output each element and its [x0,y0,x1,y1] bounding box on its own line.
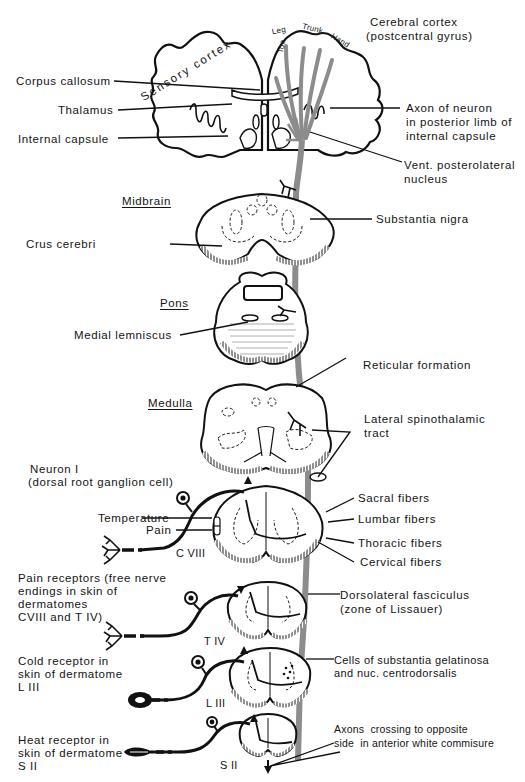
root-division-box [214,517,220,535]
midbrain-section [196,180,333,263]
spinal-segment-l3 [230,648,310,706]
substantia-nigra-label: Substantia nigra [376,212,469,226]
arrow-up-icon [240,646,248,654]
corpus-callosum-label: Corpus callosum [16,74,111,88]
axons-crossing-label-1: Axons crossing to opposite [334,722,468,736]
level-l3-label: L III [206,696,225,710]
neuron-i-label: Neuron I [30,462,79,476]
axon-neuron-label-2: in posterior limb of [406,115,512,129]
crus-cerebri-label: Crus cerebri [26,237,96,251]
level-t4-label: T IV [204,634,225,648]
arrow-up-icon [244,476,252,484]
down-arrow-icon [264,766,272,774]
substantia-gelatinosa-label-1: Cells of substantia gelatinosa [334,653,489,667]
homunculus-leg-label: Leg [271,23,288,40]
heat-receptor-label-3: S II [18,759,38,773]
reticular-formation-label: Reticular formation [363,358,471,372]
pain-receptors-label-4: CVIII and T IV) [18,610,103,624]
dorsolateral-fasciculus-label-2: (zone of Lissauer) [340,602,443,616]
cold-receptor-label-2: skin of dermatome [18,667,123,681]
axons-crossing-label-2: side in anterior white commisure [334,736,494,750]
postcentral-gyrus-label: (postcentral gyrus) [366,29,473,43]
axon-neuron-label-1: Axon of neuron [406,101,492,115]
level-s2-label: S II [220,758,238,772]
lateral-spinothalamic-label-2: tract [364,426,389,440]
pain-receptors-label-1: Pain receptors (free nerve [18,571,167,585]
heat-receptor-ending [124,748,152,757]
thoracic-fibers-label: Thoracic fibers [358,536,442,550]
medulla-section [201,384,331,481]
pain-receptors-label-3: dermatomes [18,597,88,611]
homunculus-toe-label: Toe [274,39,290,55]
level-c8-label: C VIII [176,546,205,560]
cold-receptor-bulb [128,692,152,708]
lumbar-fibers-label: Lumbar fibers [358,512,436,526]
pons-heading: Pons [160,296,189,310]
lateral-spinothalamic-label-1: Lateral spinothalamic [364,412,485,426]
dorsal-root-ganglion-label: (dorsal root ganglion cell) [28,475,173,489]
midbrain-heading: Midbrain [122,194,171,208]
pain-receptors-label-2: endings in skin of [18,584,118,598]
internal-capsule-label: Internal capsule [18,132,109,146]
sacral-fibers-label: Sacral fibers [358,491,430,505]
heat-receptor-label-2: skin of dermatome [18,746,123,760]
pain-label: Pain [146,523,171,537]
substantia-gelatinosa-label-2: and nuc. centrodorsalis [334,666,457,680]
cold-receptor-label-3: L III [18,680,40,694]
dorsolateral-fasciculus-label-1: Dorsolateral fasciculus [340,588,470,602]
vpl-nucleus-label-2: nucleus [404,172,448,186]
axon-neuron-label-3: internal capsule [406,129,496,143]
spinothalamic-pathway-diagram: Sensory cortex Toe Leg Trunk Hand Cerebr… [0,0,525,782]
cerebral-cortex-label: Cerebral cortex [370,15,458,29]
cervical-fibers-label: Cervical fibers [360,555,442,569]
cold-receptor-label-1: Cold receptor in [18,654,109,668]
thalamus-label: Thalamus [58,103,113,117]
heat-receptor-label-1: Heat receptor in [18,733,109,747]
medial-lemniscus-label: Medial lemniscus [74,328,172,342]
medulla-heading: Medulla [148,396,192,410]
vpl-nucleus-label-1: Vent. posterolateral [404,158,515,172]
